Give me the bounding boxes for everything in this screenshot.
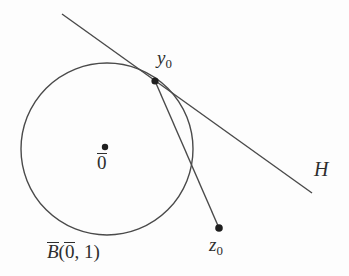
label-exterior-point: z0: [209, 235, 223, 258]
label-z0-subscript: 0: [216, 243, 222, 258]
label-ball-close-paren: ): [93, 241, 99, 262]
geometry-figure: y0 0 B(0, 1) z0 H: [0, 0, 349, 276]
exterior-point-dot: [215, 224, 223, 232]
figure-canvas: [0, 0, 349, 276]
label-tangent-point: y0: [157, 48, 172, 71]
label-ball-comma: ,: [74, 241, 84, 262]
label-closed-ball: B(0, 1): [47, 241, 100, 261]
label-y0-subscript: 0: [165, 56, 171, 71]
label-hyperplane: H: [314, 159, 328, 179]
label-center-zero-overlined: 0: [97, 152, 107, 172]
center-point-dot: [102, 144, 108, 150]
label-ball-zero: 0: [65, 241, 75, 261]
label-center-zero: 0: [97, 152, 107, 172]
label-ball-radius: 1: [84, 241, 94, 262]
label-ball-b: B: [47, 241, 59, 261]
tangent-point-dot: [151, 77, 158, 84]
